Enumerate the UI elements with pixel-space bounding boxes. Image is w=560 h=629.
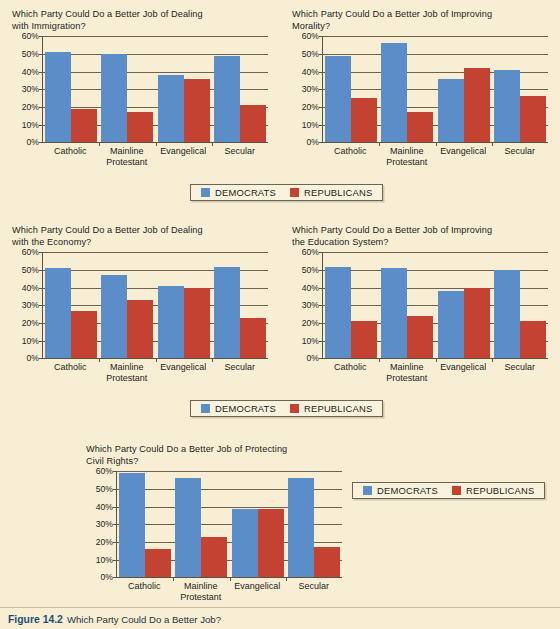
- x-axis-tick-label: Mainline Protestant: [99, 362, 156, 383]
- legend-bottom: DEMOCRATS REPUBLICANS: [352, 482, 545, 499]
- democrats-swatch-icon: [363, 486, 372, 495]
- bar-group: [43, 36, 99, 142]
- legend-item-democrats: DEMOCRATS: [201, 187, 276, 198]
- bar-republicans: [314, 547, 340, 577]
- x-axis-labels-economy: CatholicMainline ProtestantEvangelicalSe…: [42, 359, 268, 383]
- legend-label-republicans: REPUBLICANS: [304, 403, 372, 414]
- bar-group: [436, 36, 492, 142]
- bar-democrats: [158, 75, 184, 142]
- bar-republicans: [258, 509, 284, 578]
- legend-label-republicans: REPUBLICANS: [466, 485, 534, 496]
- republicans-swatch-icon: [452, 486, 461, 495]
- bar-democrats: [438, 291, 464, 358]
- bar-group: [230, 471, 286, 577]
- legend-item-republicans: REPUBLICANS: [290, 403, 372, 414]
- bar-republicans: [351, 98, 377, 142]
- bar-group: [492, 252, 548, 358]
- legend-label-democrats: DEMOCRATS: [215, 403, 276, 414]
- x-axis-tick-label: Catholic: [322, 146, 379, 167]
- republicans-swatch-icon: [290, 404, 299, 413]
- legend-item-democrats: DEMOCRATS: [201, 403, 276, 414]
- x-axis-tick-label: Secular: [286, 581, 343, 602]
- bar-group-container: [323, 252, 548, 358]
- plot-area-civil-rights: 60%50%40%30%20%10%0%: [116, 471, 342, 578]
- bar-group: [379, 252, 435, 358]
- bar-republicans: [127, 300, 153, 358]
- x-axis-tick-label: Mainline Protestant: [173, 581, 230, 602]
- x-axis-tick-label: Evangelical: [435, 146, 492, 167]
- legend-item-republicans: REPUBLICANS: [290, 187, 372, 198]
- figure-caption: Figure 14.2Which Party Could Do a Better…: [8, 614, 221, 625]
- bar-democrats: [45, 52, 71, 142]
- x-axis-tick-label: Evangelical: [155, 146, 212, 167]
- bar-democrats: [325, 56, 351, 143]
- bar-democrats: [288, 478, 314, 577]
- caption-rule: [0, 607, 560, 608]
- bar-group: [492, 36, 548, 142]
- bar-republicans: [184, 288, 210, 359]
- bar-group: [156, 252, 212, 358]
- bar-group: [436, 252, 492, 358]
- bar-democrats: [494, 70, 520, 142]
- x-axis-tick-label: Mainline Protestant: [99, 146, 156, 167]
- chart-panel-education: Which Party Could Do a Better Job of Imp…: [292, 224, 548, 359]
- chart-panel-economy: Which Party Could Do a Better Job of Dea…: [12, 224, 268, 359]
- bar-republicans: [407, 316, 433, 358]
- chart-panel-civil-rights: Which Party Could Do a Better Job of Pro…: [86, 443, 342, 578]
- democrats-swatch-icon: [201, 404, 210, 413]
- legend-label-democrats: DEMOCRATS: [377, 485, 438, 496]
- x-axis-tick-label: Catholic: [42, 362, 99, 383]
- x-axis-tick-label: Catholic: [42, 146, 99, 167]
- chart-panel-morality: Which Party Could Do a Better Job of Imp…: [292, 8, 548, 143]
- legend-label-democrats: DEMOCRATS: [215, 187, 276, 198]
- chart-title-morality: Which Party Could Do a Better Job of Imp…: [292, 8, 548, 32]
- bar-democrats: [381, 268, 407, 358]
- bar-group: [99, 252, 155, 358]
- x-axis-tick-label: Secular: [212, 362, 269, 383]
- chart-title-immigration: Which Party Could Do a Better Job of Dea…: [12, 8, 268, 32]
- bar-democrats: [232, 509, 258, 578]
- x-axis-tick-label: Mainline Protestant: [379, 146, 436, 167]
- bar-group: [323, 36, 379, 142]
- bar-democrats: [494, 270, 520, 358]
- democrats-swatch-icon: [201, 188, 210, 197]
- bar-republicans: [520, 321, 546, 358]
- chart-title-education: Which Party Could Do a Better Job of Imp…: [292, 224, 548, 248]
- bar-group-container: [43, 252, 268, 358]
- x-axis-labels-education: CatholicMainline ProtestantEvangelicalSe…: [322, 359, 548, 383]
- bar-democrats: [101, 275, 127, 358]
- x-axis-tick-label: Evangelical: [435, 362, 492, 383]
- legend-top: DEMOCRATS REPUBLICANS: [190, 184, 383, 201]
- bar-democrats: [158, 286, 184, 358]
- plot-area-morality: 60%50%40%30%20%10%0%: [322, 36, 548, 143]
- x-axis-tick-label: Evangelical: [155, 362, 212, 383]
- bar-republicans: [520, 96, 546, 142]
- bar-republicans: [407, 112, 433, 142]
- chart-title-economy: Which Party Could Do a Better Job of Dea…: [12, 224, 268, 248]
- figure-number: Figure 14.2: [8, 614, 63, 625]
- bar-republicans: [145, 549, 171, 577]
- bar-republicans: [351, 321, 377, 358]
- bar-group: [156, 36, 212, 142]
- bar-republicans: [464, 288, 490, 359]
- bar-republicans: [464, 68, 490, 142]
- bar-group: [43, 252, 99, 358]
- x-axis-tick-label: Secular: [492, 146, 549, 167]
- bar-democrats: [214, 267, 240, 359]
- bar-democrats: [438, 79, 464, 143]
- bar-republicans: [71, 311, 97, 359]
- plot-area-economy: 60%50%40%30%20%10%0%: [42, 252, 268, 359]
- x-axis-labels-immigration: CatholicMainline ProtestantEvangelicalSe…: [42, 143, 268, 167]
- legend-middle: DEMOCRATS REPUBLICANS: [190, 400, 383, 417]
- bar-group: [379, 36, 435, 142]
- bar-republicans: [184, 79, 210, 143]
- x-axis-tick-label: Secular: [212, 146, 269, 167]
- chart-title-civil-rights: Which Party Could Do a Better Job of Pro…: [86, 443, 342, 467]
- bar-group: [117, 471, 173, 577]
- bar-republicans: [127, 112, 153, 142]
- chart-panel-immigration: Which Party Could Do a Better Job of Dea…: [12, 8, 268, 143]
- bar-democrats: [119, 473, 145, 577]
- bar-democrats: [214, 56, 240, 143]
- republicans-swatch-icon: [290, 188, 299, 197]
- x-axis-labels-morality: CatholicMainline ProtestantEvangelicalSe…: [322, 143, 548, 167]
